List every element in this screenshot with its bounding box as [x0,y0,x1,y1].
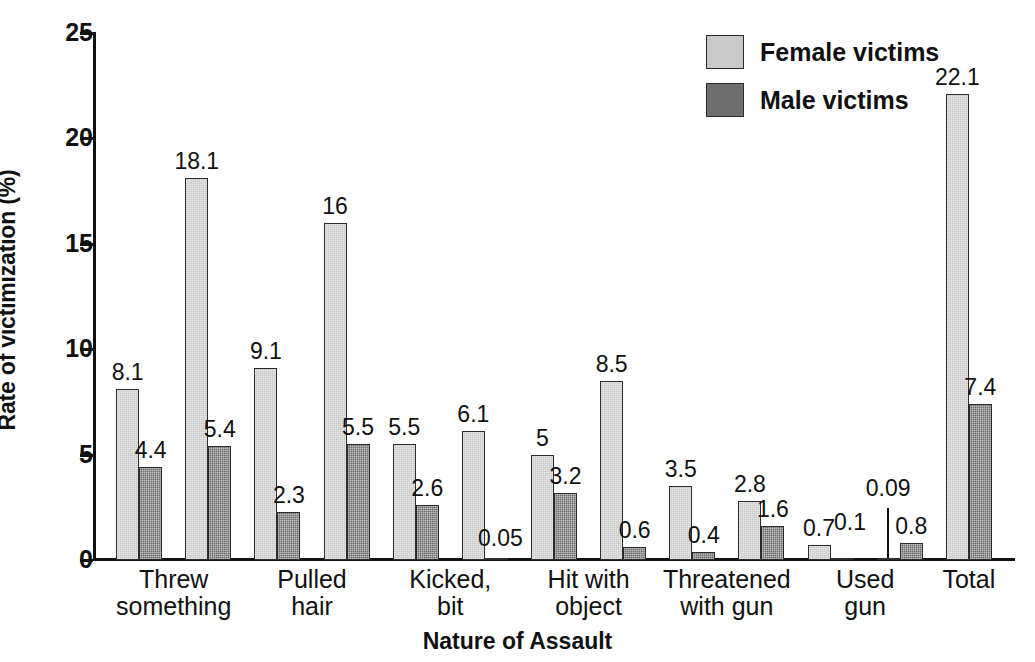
bar-value-label: 3.5 [665,458,697,481]
x-axis-category-label: Hit withobject [548,566,630,620]
bar-value-label: 5.5 [342,416,374,439]
category-line-2: gun [836,593,894,620]
bar-male [623,547,646,560]
x-axis-category-label: Threwsomething [116,566,231,620]
y-tick-label: 20 [65,125,93,150]
y-tick-label: 10 [65,336,93,361]
bar-value-label: 0.4 [688,524,720,547]
bar-male [139,467,162,560]
bar-female [185,178,208,560]
legend-item-male: Male victims [706,82,1006,118]
bar-male [969,404,992,560]
bar-male [554,493,577,560]
bar-value-label: 2.6 [411,477,443,500]
x-axis-category-label: Usedgun [836,566,894,620]
category-line-1: Threw [116,566,231,593]
bar-female [324,223,347,560]
x-axis-title: Nature of Assault [0,628,1035,655]
bar-value-label: 0.09 [866,477,911,500]
bar-male [761,526,784,560]
bar-female [808,545,831,560]
bar-male [208,446,231,560]
bar-value-label: 2.8 [734,473,766,496]
bar-male [485,558,508,561]
category-line-1: Total [942,566,995,593]
bar-female [393,444,416,560]
bar-value-label: 0.05 [478,527,523,550]
y-axis-title-text: Rate of victimization (%) [0,170,21,431]
category-line-1: Kicked, [409,566,491,593]
bar-male [277,512,300,560]
bar-value-label: 5.4 [204,418,236,441]
y-axis-title: Rate of victimization (%) [0,170,21,431]
bar-value-label: 0.6 [619,519,651,542]
bar-value-label: 18.1 [174,150,219,173]
x-axis-category-label: Kicked,bit [409,566,491,620]
y-tick-label: 0 [79,547,93,572]
legend-label-female: Female victims [760,38,939,67]
bar-male [831,558,854,561]
legend-swatch-male-icon [706,83,744,117]
category-line-2: hair [277,593,347,620]
category-line-2: object [548,593,630,620]
y-tick-label: 25 [65,20,93,45]
bar-male [900,543,923,560]
legend-swatch-female-icon [706,35,744,69]
bar-value-label: 0.1 [834,511,866,534]
bar-female [254,368,277,560]
bar-value-label: 9.1 [250,340,282,363]
bar-value-label: 2.3 [273,484,305,507]
bar-value-label: 1.6 [757,498,789,521]
bar-chart: Rate of victimization (%) 0510152025 8.1… [0,0,1035,662]
bar-value-label: 8.1 [112,361,144,384]
legend-item-female: Female victims [706,34,1006,70]
bar-value-label: 0.7 [803,517,835,540]
bar-value-label: 8.5 [596,353,628,376]
bar-female [946,94,969,560]
bar-value-label: 16 [322,195,348,218]
category-line-1: Used [836,566,894,593]
value-leader-line [887,508,889,558]
x-axis-category-label: Threatenedwith gun [663,566,791,620]
bar-value-label: 6.1 [457,403,489,426]
bar-male [416,505,439,560]
y-tick-label: 5 [79,441,93,466]
bar-value-label: 4.4 [135,439,167,462]
bar-value-label: 5 [536,427,549,450]
category-line-1: Threatened [663,566,791,593]
y-tick-label: 15 [65,230,93,255]
category-line-2: with gun [663,593,791,620]
bar-value-label: 3.2 [550,465,582,488]
bar-male [692,552,715,560]
bar-male [347,444,370,560]
category-line-1: Pulled [277,566,347,593]
bar-value-label: 5.5 [388,416,420,439]
x-axis-category-label: Pulledhair [277,566,347,620]
legend: Female victims Male victims [706,34,1006,130]
x-axis-category-labels: ThrewsomethingPulledhairKicked,bitHit wi… [93,566,1015,630]
category-line-1: Hit with [548,566,630,593]
bar-female [116,389,139,560]
category-line-2: bit [409,593,491,620]
legend-label-male: Male victims [760,86,909,115]
bar-value-label: 0.8 [895,515,927,538]
bar-female [877,558,900,561]
category-line-2: something [116,593,231,620]
x-axis-category-label: Total [942,566,995,593]
bar-value-label: 7.4 [964,376,996,399]
